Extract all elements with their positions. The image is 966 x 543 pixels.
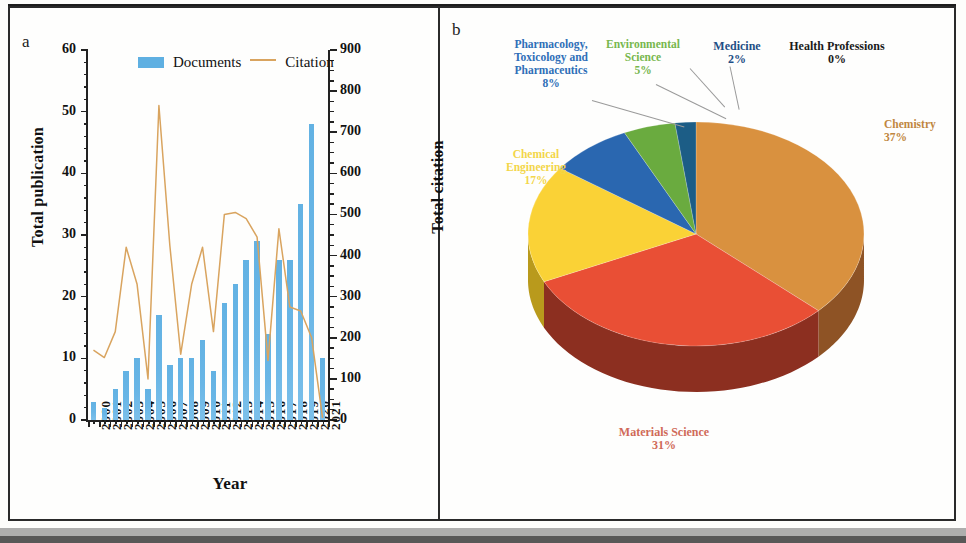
x-axis-minor-tick [224, 420, 226, 424]
x-axis-tick [208, 420, 210, 427]
x-axis-minor-tick [159, 420, 161, 424]
x-axis-tick [317, 420, 319, 427]
x-axis-minor-tick [137, 420, 139, 424]
pie-label-pharmacology-pct: 8% [496, 77, 606, 90]
y-axis-right-minor-tick [330, 245, 334, 246]
y-axis-right-minor-tick [330, 203, 334, 204]
x-axis-minor-tick [170, 420, 172, 424]
x-axis-minor-tick [268, 420, 270, 424]
x-axis-minor-tick [257, 420, 259, 424]
y-axis-right-minor-tick [330, 111, 334, 112]
x-axis-tick [153, 420, 155, 427]
pie-label-medicine: Medicine 2% [700, 40, 774, 67]
legend-line-citation [250, 59, 276, 61]
pie-svg [496, 84, 896, 404]
y-axis-right-minor-tick [330, 121, 334, 122]
y-axis-left-tick [81, 111, 88, 113]
y-axis-right-minor-tick [330, 142, 334, 143]
x-axis-tick [121, 420, 123, 427]
x-axis-minor-tick [290, 420, 292, 424]
pie-label-chemistry-name: Chemistry [884, 118, 936, 130]
y-axis-right-minor-tick [330, 347, 334, 348]
pie-label-chemistry-pct: 37% [884, 131, 964, 144]
x-axis-tick [88, 420, 90, 427]
y-axis-left-tick [81, 234, 88, 236]
x-axis-tick [284, 420, 286, 427]
pie-label-chemistry: Chemistry 37% [884, 118, 964, 144]
y-axis-right-tick-label: 800 [340, 82, 380, 98]
y-axis-right-tick-label: 100 [340, 370, 380, 386]
y-axis-left-tick-label: 0 [42, 411, 76, 427]
y-axis-right-tick-label: 500 [340, 205, 380, 221]
y-axis-right-tick-label: 700 [340, 123, 380, 139]
x-axis-minor-tick [93, 420, 95, 424]
x-axis-minor-tick [148, 420, 150, 424]
pie-label-environmental-science-pct: 5% [596, 64, 690, 77]
y-axis-right-minor-tick [330, 193, 334, 194]
pie-label-materials-science: Materials Science 31% [584, 426, 744, 453]
y-axis-right-minor-tick [330, 327, 334, 328]
y-axis-left-tick-label: 10 [42, 349, 76, 365]
y-axis-right-minor-tick [330, 234, 334, 235]
x-axis-minor-tick [203, 420, 205, 424]
x-axis-tick [306, 420, 308, 427]
x-axis-tick [197, 420, 199, 427]
y-axis-right-minor-tick [330, 101, 334, 102]
figure-canvas: a Total publication Total citation Year … [0, 0, 966, 543]
y-axis-right-tick-label: 400 [340, 247, 380, 263]
y-axis-left-tick [81, 358, 88, 360]
x-axis-tick [241, 420, 243, 427]
y-axis-right-tick [330, 214, 337, 216]
y-axis-right-tick-label: 300 [340, 288, 380, 304]
y-axis-right-minor-tick [330, 162, 334, 163]
x-axis-minor-tick [104, 420, 106, 424]
pie-label-health-professions: Health Professions 0% [776, 40, 898, 67]
y-axis-right-minor-tick [330, 152, 334, 153]
x-axis-minor-tick [181, 420, 183, 424]
y-axis-left-tick-label: 60 [42, 41, 76, 57]
y-axis-right-tick [330, 378, 337, 380]
pie-label-medicine-name: Medicine [713, 39, 760, 53]
y-axis-right-tick [330, 49, 337, 51]
y-axis-left-tick [81, 296, 88, 298]
pie-3d-graphic [496, 84, 896, 404]
chart-legend: Documents Citation [138, 54, 334, 71]
plot-area [88, 50, 328, 420]
y-axis-right-minor-tick [330, 368, 334, 369]
x-axis-title: Year [70, 474, 390, 494]
y-axis-right-tick [330, 255, 337, 257]
page-bottom-band-dark [0, 536, 966, 543]
x-axis-tick [328, 420, 330, 427]
x-axis-tick [99, 420, 101, 427]
x-axis-minor-tick [213, 420, 215, 424]
y-axis-left-title: Total publication [29, 97, 47, 277]
y-axis-right-tick-label: 0 [340, 411, 380, 427]
pie-label-pharmacology-name: Pharmacology, Toxicology and Pharmaceuti… [514, 38, 588, 76]
y-axis-left-tick-label: 40 [42, 164, 76, 180]
pie-label-materials-science-name: Materials Science [619, 425, 709, 439]
pie-label-chemical-engineering-pct: 17% [486, 174, 586, 187]
pie-label-medicine-pct: 2% [700, 53, 774, 66]
x-axis-minor-tick [246, 420, 248, 424]
pie-label-health-professions-pct: 0% [776, 53, 898, 66]
x-axis-tick [175, 420, 177, 427]
pie-label-environmental-science: Environmental Science 5% [596, 38, 690, 77]
pie-label-chemical-engineering-name: Chemical Engineering [506, 148, 566, 173]
y-axis-right-tick-label: 900 [340, 41, 380, 57]
y-axis-right-minor-tick [330, 358, 334, 359]
x-axis-minor-tick [323, 420, 325, 424]
x-axis-minor-tick [279, 420, 281, 424]
x-axis-tick [164, 420, 166, 427]
pie-label-pharmacology: Pharmacology, Toxicology and Pharmaceuti… [496, 38, 606, 90]
y-axis-right-minor-tick [330, 183, 334, 184]
x-axis-tick [230, 420, 232, 427]
x-axis-minor-tick [192, 420, 194, 424]
x-axis-minor-tick [126, 420, 128, 424]
y-axis-left-tick-label: 50 [42, 103, 76, 119]
panel-b-pie-chart: b Pharmacology, Toxicology and Pharmaceu… [444, 8, 956, 519]
x-axis-tick [110, 420, 112, 427]
y-axis-right-minor-tick [330, 275, 334, 276]
y-axis-right-tick [330, 337, 337, 339]
pie-label-environmental-science-name: Environmental Science [606, 38, 680, 63]
y-axis-left-tick-label: 30 [42, 226, 76, 242]
